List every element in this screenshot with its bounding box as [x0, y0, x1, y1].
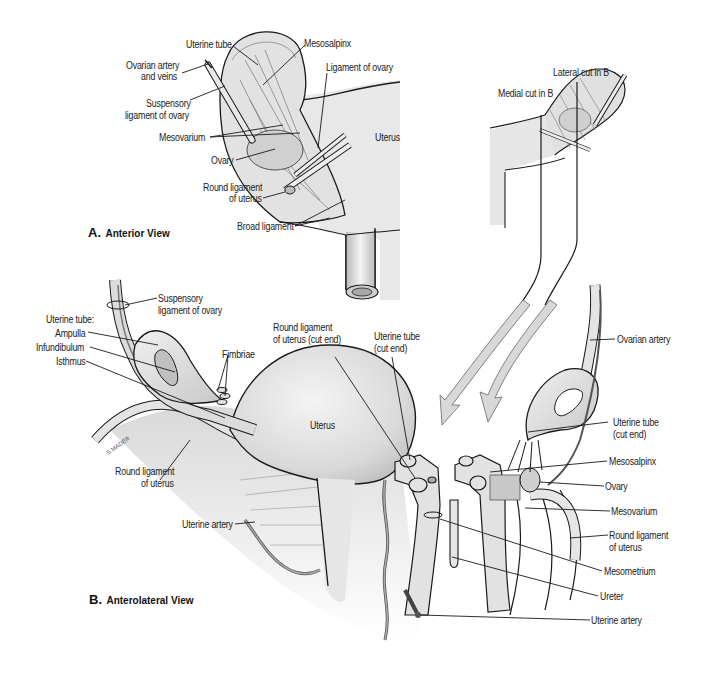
- label-a-mesosalpinx: Mesosalpinx: [304, 38, 351, 49]
- label-b-mesovarium: Mesovarium: [611, 506, 657, 517]
- label-b-uterus: Uterus: [310, 420, 335, 431]
- label-a-ovarian-artery: Ovarian artery: [126, 60, 179, 71]
- label-a-mesovarium: Mesovarium: [159, 132, 205, 143]
- label-b-uterine-tube-right-1: Uterine tube: [613, 417, 659, 428]
- label-b-ovary: Ovary: [605, 481, 628, 492]
- label-b-infundibulum: Infundibulum: [36, 342, 84, 353]
- label-a-and-veins: and veins: [141, 71, 177, 82]
- label-a-uterine-tube: Uterine tube: [186, 39, 232, 50]
- anatomy-illustration: S.MADER: [0, 0, 705, 674]
- label-b-mesosalpinx: Mesosalpinx: [609, 456, 656, 467]
- label-b-ampulla: Ampulla: [55, 328, 86, 339]
- panel-a-letter: A.: [88, 225, 101, 240]
- panel-b-letter: B.: [89, 592, 102, 607]
- label-b-uterine-artery-left: Uterine artery: [182, 519, 233, 530]
- panel-b-title: B. Anterolateral View: [89, 590, 194, 608]
- label-a-broad-ligament: Broad ligament: [237, 221, 294, 232]
- label-b-mesometrium: Mesometrium: [604, 566, 655, 577]
- label-a-suspensory-2: ligament of ovary: [125, 110, 189, 121]
- label-b-round-lig-right-1: Round ligament: [609, 530, 668, 541]
- label-a-uterus: Uterus: [375, 132, 400, 143]
- label-b-ureter: Ureter: [600, 591, 623, 602]
- label-b-ovarian-artery: Ovarian artery: [617, 334, 670, 345]
- label-b-round-lig-1: Round ligament: [115, 466, 174, 477]
- label-a-ligament-of-ovary: Ligament of ovary: [326, 62, 393, 73]
- label-b-suspensory-2: ligament of ovary: [158, 305, 222, 316]
- label-b-uterine-tube-cut-2: (cut end): [374, 343, 407, 354]
- label-a-suspensory-1: Suspensory: [146, 98, 191, 109]
- label-b-suspensory-1: Suspensory: [158, 293, 203, 304]
- label-medial-cut: Medial cut in B: [498, 88, 553, 99]
- label-b-round-lig-2: of uterus: [141, 478, 174, 489]
- label-a-round-ligament-1: Round ligament: [203, 182, 262, 193]
- label-lateral-cut: Lateral cut in B: [553, 67, 609, 78]
- panel-a-view-name: Anterior View: [105, 228, 169, 239]
- label-a-ovary: Ovary: [211, 155, 234, 166]
- label-b-uterine-artery-bottom: Uterine artery: [591, 615, 642, 626]
- label-b-uterine-tube-heading: Uterine tube:: [46, 314, 94, 325]
- label-b-uterine-tube-cut-1: Uterine tube: [374, 331, 420, 342]
- label-b-uterine-tube-right-2: (cut end): [613, 429, 646, 440]
- label-b-fimbriae: Fimbriae: [222, 349, 255, 360]
- panel-b-view-name: Anterolateral View: [106, 595, 193, 606]
- label-b-isthmus: Isthmus: [56, 356, 86, 367]
- label-a-round-ligament-2: of uterus: [229, 193, 262, 204]
- label-b-round-lig-cut-2: of uterus (cut end): [273, 334, 341, 345]
- panel-a-title: A. Anterior View: [88, 223, 170, 241]
- label-b-round-lig-right-2: of uterus: [609, 542, 642, 553]
- label-b-round-lig-cut-1: Round ligament: [273, 322, 332, 333]
- inset-cut-drawing: [490, 69, 625, 305]
